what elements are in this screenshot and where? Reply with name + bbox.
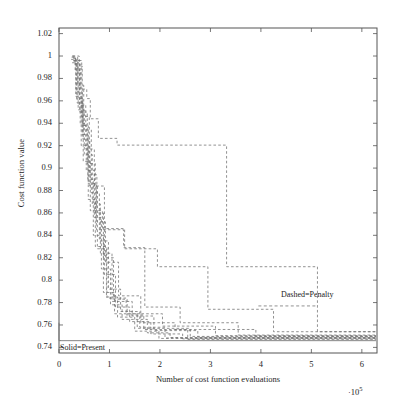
- y-tick-label: 0.78: [8, 297, 52, 307]
- x-tick-label: 3: [195, 359, 225, 369]
- y-tick-label: 0.84: [8, 229, 52, 239]
- y-tick-label: 0.8: [8, 274, 52, 284]
- y-tick-label: 0.88: [8, 185, 52, 195]
- x-tick-label: 0: [44, 359, 74, 369]
- x-tick-label: 1: [94, 359, 124, 369]
- y-tick-label: 1: [8, 50, 52, 60]
- x-axis-label: Number of cost function evaluations: [59, 374, 377, 384]
- y-tick-label: 0.92: [8, 140, 52, 150]
- figure-root: Cost function value Number of cost funct…: [0, 0, 394, 401]
- annotation-dashed-penalty: Dashed=Penalty: [281, 290, 334, 299]
- annotation-solid-present: Solid=Present: [60, 343, 105, 352]
- y-tick-label: 0.74: [8, 341, 52, 351]
- x-axis-multiplier: ·105: [348, 385, 363, 397]
- y-tick-label: 0.96: [8, 95, 52, 105]
- y-tick-label: 0.9: [8, 162, 52, 172]
- x-tick-label: 2: [145, 359, 175, 369]
- x-tick-label: 5: [296, 359, 326, 369]
- y-tick-label: 0.94: [8, 117, 52, 127]
- series-line-present-solid: [59, 323, 376, 341]
- y-axis-label: Cost function value: [16, 108, 26, 238]
- y-tick-label: 1.02: [8, 28, 52, 38]
- convergence-plot: [0, 0, 394, 401]
- y-tick-label: 0.98: [8, 72, 52, 82]
- x-tick-label: 4: [246, 359, 276, 369]
- y-tick-label: 0.86: [8, 207, 52, 217]
- y-tick-label: 0.82: [8, 252, 52, 262]
- plot-frame: [59, 28, 377, 353]
- x-tick-label: 6: [347, 359, 377, 369]
- y-tick-label: 0.76: [8, 319, 52, 329]
- x-multiplier-exponent: 5: [359, 385, 362, 392]
